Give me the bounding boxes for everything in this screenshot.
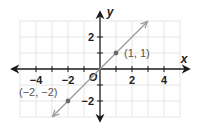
- x-tick-label: 2: [129, 74, 135, 86]
- y-tick-label: −2: [81, 95, 94, 107]
- y-axis-label: y: [106, 5, 115, 19]
- x-tick-label: 4: [161, 74, 168, 86]
- coordinate-plane: −4 −2 2 4 2 −2 x y O (1, 1) (−2, −2): [0, 0, 200, 123]
- data-point: [114, 51, 119, 56]
- x-axis-label: x: [180, 52, 189, 66]
- point-label: (−2, −2): [19, 86, 58, 98]
- x-tick-label: −4: [30, 74, 43, 86]
- data-point: [66, 99, 71, 104]
- y-tick-label: 2: [88, 31, 94, 43]
- x-tick-label: −2: [62, 74, 75, 86]
- point-label: (1, 1): [124, 47, 150, 59]
